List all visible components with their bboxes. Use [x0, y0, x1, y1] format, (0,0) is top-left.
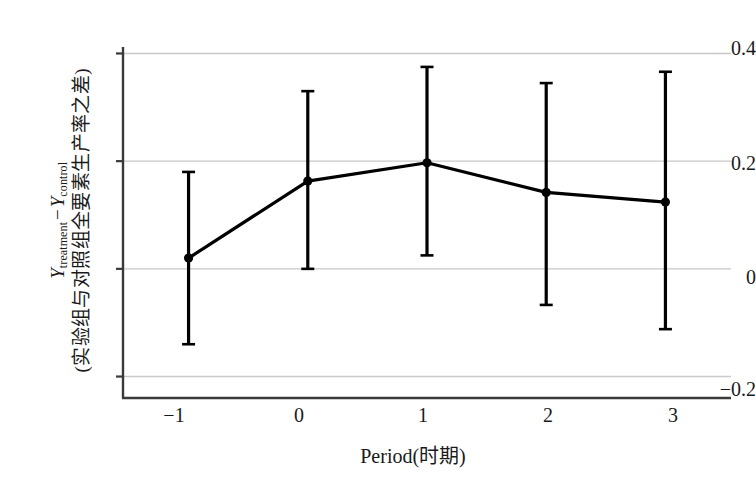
- x-tick-label-3: 2: [528, 404, 568, 427]
- x-axis-label-text: Period(时期): [360, 440, 466, 469]
- y-tick-label-1: 0.2: [704, 153, 756, 173]
- x-tick-label-1: 0: [279, 404, 319, 427]
- x-tick-label-2: 1: [403, 404, 443, 427]
- y-label-operator: −: [47, 207, 68, 222]
- chart-figure: Ytreatment−Ycontrol (实验组与对照组全要素生产率之差) 0.…: [0, 0, 756, 483]
- y-tick-label-2: 0: [704, 267, 756, 287]
- y-tick-label-0: 0.4: [704, 38, 756, 58]
- data-point-4: [661, 197, 670, 206]
- y-axis-label-line2: (实验组与对照组全要素生产率之差): [70, 68, 94, 372]
- y-symbol-control: Y: [47, 196, 68, 207]
- x-axis-label: Period(时期): [0, 440, 756, 469]
- x-tick-label-0: −1: [154, 404, 194, 427]
- y-axis-label: Ytreatment−Ycontrol (实验组与对照组全要素生产率之差): [10, 0, 130, 440]
- y-symbol-treatment: Y: [47, 268, 68, 279]
- y-subscript-treatment: treatment: [56, 222, 70, 268]
- data-point-3: [542, 188, 551, 197]
- y-subscript-control: control: [56, 162, 70, 197]
- data-point-2: [422, 158, 431, 167]
- x-tick-label-4: 3: [653, 404, 693, 427]
- data-point-1: [303, 176, 312, 185]
- error-bars-group: [182, 67, 672, 344]
- y-tick-label-3: −0.2: [704, 379, 756, 399]
- data-point-0: [184, 253, 193, 262]
- y-axis-label-line1: Ytreatment−Ycontrol: [46, 68, 70, 372]
